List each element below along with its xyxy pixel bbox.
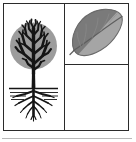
figure-root [0,0,136,142]
tree-trunk [32,68,36,88]
cell-leaf [65,4,129,64]
tree-illustration [4,4,64,130]
leaf-petiole [70,51,74,55]
cell-tree [4,4,64,130]
leaf-illustration [65,4,129,64]
panel-frame [3,3,129,131]
cell-empty [65,65,129,129]
bottom-rule [2,138,132,139]
